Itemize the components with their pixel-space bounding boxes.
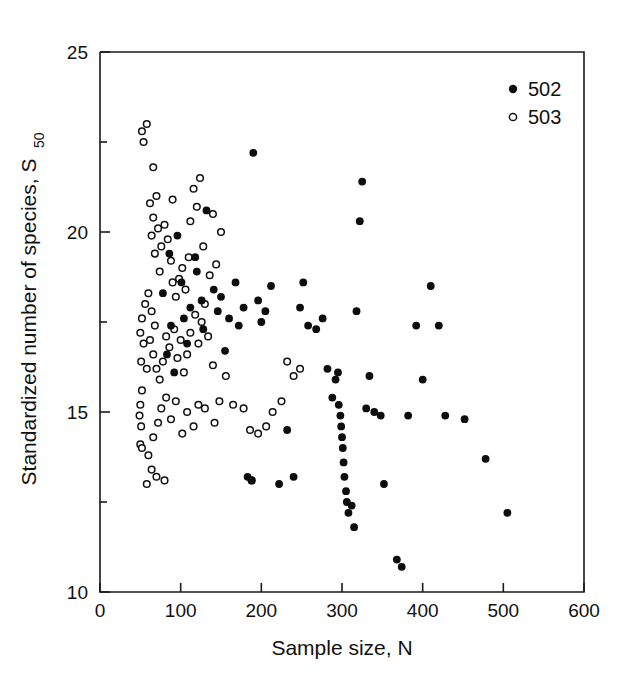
data-point-503 <box>177 337 184 344</box>
scatter-plot-figure: 0100200300400500600 10152025 502 503 Sam… <box>0 0 622 683</box>
data-point-502 <box>304 322 312 330</box>
data-point-502 <box>240 304 248 312</box>
data-point-502 <box>337 423 345 431</box>
y-tick-label-20: 20 <box>67 222 88 243</box>
data-point-502 <box>328 394 336 402</box>
plot-frame <box>100 52 584 592</box>
data-point-503 <box>187 218 194 225</box>
data-point-503 <box>173 398 180 405</box>
data-point-503 <box>138 358 145 365</box>
data-point-502 <box>336 412 344 420</box>
data-point-503 <box>168 416 175 423</box>
data-point-502 <box>340 459 348 467</box>
data-point-503 <box>263 423 270 430</box>
data-point-503 <box>200 243 207 250</box>
data-point-502 <box>186 304 194 312</box>
data-point-502 <box>275 480 283 488</box>
data-point-502 <box>299 279 307 287</box>
data-point-502 <box>210 286 218 294</box>
data-point-502 <box>362 405 370 413</box>
data-point-502 <box>358 178 366 186</box>
data-point-503 <box>190 423 197 430</box>
data-point-503 <box>164 236 171 243</box>
data-point-503 <box>150 214 157 221</box>
data-point-502 <box>170 369 178 377</box>
data-point-503 <box>137 330 144 337</box>
data-point-502 <box>339 444 347 452</box>
data-point-503 <box>152 322 159 329</box>
data-point-503 <box>152 250 159 257</box>
data-point-503 <box>148 232 155 239</box>
data-point-503 <box>147 337 154 344</box>
x-axis-tick-labels: 0100200300400500600 <box>95 600 600 621</box>
data-point-502 <box>174 232 182 240</box>
data-point-503 <box>184 351 191 358</box>
data-point-502 <box>461 415 469 423</box>
data-point-502 <box>341 473 349 481</box>
data-point-503 <box>169 279 176 286</box>
data-point-502 <box>334 369 342 377</box>
x-axis-title: Sample size, N <box>271 636 412 659</box>
legend-label-502: 502 <box>528 78 561 100</box>
data-point-503 <box>153 366 160 373</box>
data-point-503 <box>153 474 160 481</box>
data-point-503 <box>138 423 145 430</box>
data-point-503 <box>284 358 291 365</box>
data-point-503 <box>155 420 162 427</box>
data-point-503 <box>240 405 247 412</box>
data-point-502 <box>167 322 175 330</box>
data-point-503 <box>206 272 213 279</box>
data-point-503 <box>197 175 204 182</box>
data-point-502 <box>319 315 327 323</box>
data-point-503 <box>247 427 254 434</box>
axis-frame-box <box>100 52 584 592</box>
data-point-502 <box>283 426 291 434</box>
y-axis-tick-labels: 10152025 <box>67 42 88 603</box>
data-point-502 <box>377 412 385 420</box>
y-axis-title-subscript: 50 <box>31 132 47 148</box>
y-axis-title: Standardized number of species, S <box>17 159 40 486</box>
data-point-502 <box>350 523 358 531</box>
data-point-503 <box>278 398 285 405</box>
y-axis-title-group: Standardized number of species, S 50 <box>17 132 47 485</box>
data-point-503 <box>145 290 152 297</box>
data-point-502 <box>338 433 346 441</box>
data-point-503 <box>140 139 147 146</box>
data-point-502 <box>398 563 406 571</box>
data-point-502 <box>267 282 275 290</box>
data-point-502 <box>199 325 207 333</box>
data-point-503 <box>156 268 163 275</box>
plot-canvas: 0100200300400500600 10152025 502 503 Sam… <box>0 0 622 683</box>
data-point-503 <box>139 387 146 394</box>
data-point-502 <box>254 297 262 305</box>
data-point-502 <box>404 412 412 420</box>
data-point-503 <box>143 481 150 488</box>
data-point-502 <box>235 322 243 330</box>
data-point-503 <box>179 430 186 437</box>
data-point-503 <box>142 301 149 308</box>
data-point-503 <box>179 265 186 272</box>
data-point-502 <box>332 376 340 384</box>
y-axis-ticks <box>100 52 110 592</box>
data-point-503 <box>184 409 191 416</box>
data-point-502 <box>214 307 222 315</box>
data-point-503 <box>182 286 189 293</box>
data-point-503 <box>168 258 175 265</box>
data-point-503 <box>140 340 147 347</box>
data-point-502 <box>435 322 443 330</box>
data-point-502 <box>232 279 240 287</box>
data-point-502 <box>342 487 350 495</box>
data-point-503 <box>230 402 237 409</box>
data-point-503 <box>143 366 150 373</box>
data-point-502 <box>191 253 199 261</box>
data-point-503 <box>297 366 304 373</box>
y-tick-label-25: 25 <box>67 42 88 63</box>
data-point-503 <box>173 294 180 301</box>
data-point-502 <box>257 318 265 326</box>
data-point-503 <box>223 373 230 380</box>
data-point-503 <box>205 333 212 340</box>
data-point-503 <box>139 445 146 452</box>
data-point-503 <box>161 222 168 229</box>
x-axis-ticks <box>100 583 584 592</box>
data-point-502 <box>178 279 186 287</box>
